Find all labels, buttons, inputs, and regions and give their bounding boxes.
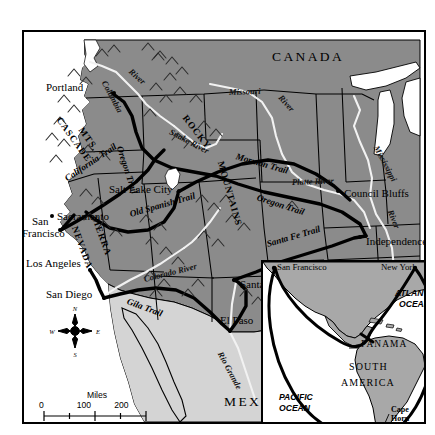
compass-east-label: E [95, 328, 100, 335]
scale-miles-ticks: 0 100 200 [39, 400, 152, 410]
city-label-los-angeles: Los Angeles [26, 258, 81, 269]
city-label-san-diego: San Diego [46, 289, 92, 300]
inset-city-label-san-francisco: San Francisco [277, 263, 327, 272]
scale-miles-tick-2: 200 [114, 400, 152, 410]
inset-place-label-south: SOUTH [349, 362, 388, 372]
scale-km-tick-0: 0 [39, 422, 77, 424]
scale-bar: Miles 0 100 200 0 200 400 Kilometers [42, 390, 152, 424]
city-label-independence: Independence [366, 236, 426, 247]
inset-ocean-label-atlantic: ATLANTIC [395, 289, 426, 298]
city-label-portland: Portland [46, 82, 83, 93]
city-label-san: San [32, 216, 49, 227]
map-root: CANADA MEXICO Portland Salt Lake City Sa… [0, 0, 435, 435]
scale-km-tick-2: 400 [114, 422, 152, 424]
scale-km-ticks: 0 200 400 [39, 422, 152, 424]
inset-cape-label-cape: Cape [391, 406, 409, 414]
scale-miles-tick-0: 0 [39, 400, 77, 410]
compass-north-label: N [72, 305, 78, 312]
scale-miles-tick-1: 100 [77, 400, 115, 410]
inset-ocean-label-atlantic-ocean: OCEAN [399, 300, 426, 309]
inset-dot-san-francisco [272, 266, 276, 270]
inset-ocean-label-pacific: PACIFIC [279, 393, 313, 402]
compass-west-label: W [49, 328, 55, 335]
city-label-council-bluffs: Council Bluffs [344, 188, 409, 199]
city-label-el-paso: El Paso [220, 315, 253, 326]
scale-bar-graphic [42, 410, 152, 422]
river-label-platte-river: Platte River [292, 177, 334, 187]
compass-rose: N E S W [46, 302, 104, 360]
inset-place-label-america: AMERICA [341, 378, 395, 388]
inset-ocean-label-pacific-ocean: OCEAN [279, 404, 310, 413]
country-label-canada: CANADA [272, 50, 344, 64]
compass-south-label: S [73, 351, 77, 358]
inset-cape-label-horn: Horn [391, 415, 409, 423]
city-label-salt-lake-city: Salt Lake City [109, 184, 173, 195]
scale-miles-caption: Miles [42, 390, 152, 400]
scale-km-tick-1: 200 [77, 422, 115, 424]
inset-city-label-new-york: New York [381, 263, 417, 272]
inset-place-label-panama: PANAMA [361, 340, 407, 349]
main-map-frame: CANADA MEXICO Portland Salt Lake City Sa… [22, 30, 426, 424]
river-label-missouri: Missouri [229, 87, 261, 97]
inset-map-sea-routes: San Francisco New York ATLANTIC OCEAN PA… [261, 260, 426, 424]
